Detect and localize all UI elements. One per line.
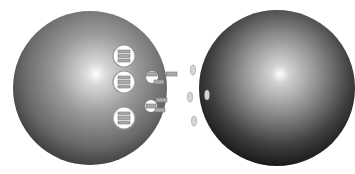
receptor [188,92,193,102]
stored-molecule [118,76,130,79]
target-cell-body [199,10,355,166]
stored-molecule [118,117,130,120]
stored-molecule [118,59,130,62]
signal-molecule [166,72,177,76]
receptor [205,90,210,100]
vesicle-group [113,45,135,129]
secreting-cell [13,11,167,165]
stored-molecule [118,55,130,58]
vesicle [113,71,135,93]
signal-molecule [146,72,157,76]
stored-molecule [118,81,130,84]
signal-molecule [156,98,167,102]
stored-molecule [118,112,130,115]
vesicle [113,45,135,67]
receptor [191,65,196,75]
stored-molecule [118,85,130,88]
signal-molecule [155,108,165,112]
stored-molecule [118,121,130,124]
signal-molecule [146,104,156,108]
vesicle [113,107,135,129]
receptor [192,116,197,126]
cell-signaling-diagram [0,0,355,174]
target-cell [188,10,355,166]
stored-molecule [118,50,130,53]
signal-molecule [154,80,164,84]
secreting-cell-body [13,11,167,165]
